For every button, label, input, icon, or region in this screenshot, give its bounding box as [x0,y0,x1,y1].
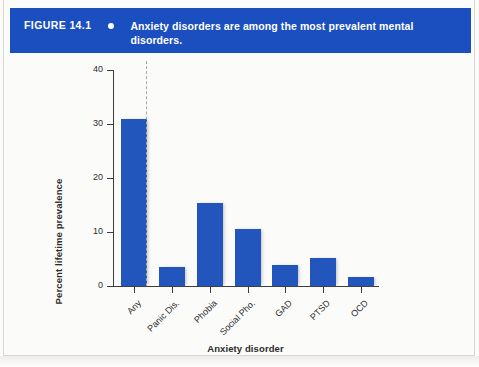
y-axis-tick: 40 [107,70,113,71]
plot-area: 010203040 AnyPanic Dis.PhobiaSocial Pho.… [113,70,378,286]
x-axis-tick [361,286,362,293]
y-axis-title: Percent lifetime prevalence [53,162,64,322]
y-axis-tick-label: 30 [93,118,103,128]
y-axis-tick: 20 [107,178,113,179]
bar [159,267,185,286]
y-axis-tick-label: 40 [93,64,103,74]
bullet-dot-icon [108,23,114,29]
x-axis-tick [285,286,286,293]
y-axis-tick: 0 [107,286,113,287]
figure-caption: Anxiety disorders are among the most pre… [130,19,459,47]
bar [121,119,147,286]
x-axis-title: Anxiety disorder [113,343,378,354]
x-axis-tick [134,286,135,293]
x-axis-line [113,286,379,287]
dashed-separator-line [146,61,147,286]
y-axis-line [113,70,114,287]
bar [272,265,298,286]
bar [310,258,336,286]
bar-chart: Percent lifetime prevalence 010203040 An… [0,53,479,353]
bar [235,229,261,286]
x-axis-tick [172,286,173,293]
page-bottom-edge [0,356,479,367]
figure-page: FIGURE 14.1 Anxiety disorders are among … [0,0,479,367]
x-axis-tick [210,286,211,293]
y-axis-tick: 10 [107,232,113,233]
figure-number-label: FIGURE 14.1 [24,19,91,32]
bar [197,203,223,286]
figure-banner-content: FIGURE 14.1 Anxiety disorders are among … [10,8,471,47]
y-axis-tick-label: 10 [93,226,103,236]
y-axis-tick-label: 0 [98,280,103,290]
figure-banner: FIGURE 14.1 Anxiety disorders are among … [10,8,471,53]
x-axis-tick [248,286,249,293]
bar [348,277,374,286]
x-axis-tick [323,286,324,293]
y-axis-tick: 30 [107,124,113,125]
y-axis-tick-label: 20 [93,172,103,182]
